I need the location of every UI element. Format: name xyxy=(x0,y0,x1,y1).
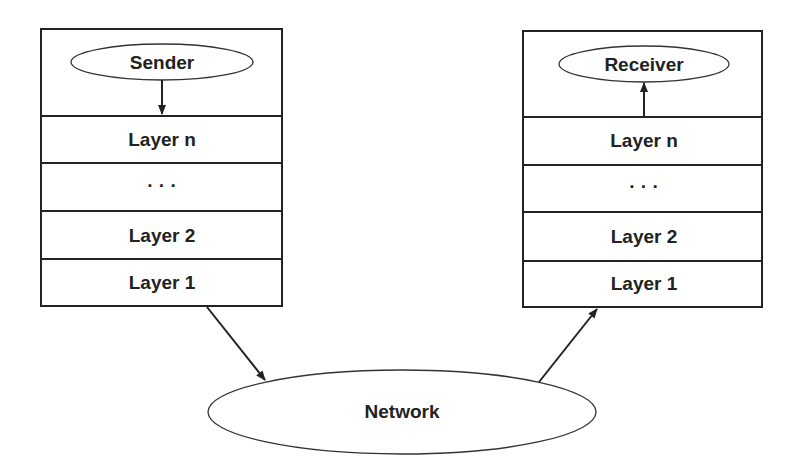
diagram-canvas: Sender Layer n · · · Layer 2 Layer 1 Rec… xyxy=(0,0,797,474)
network: Network xyxy=(208,370,596,454)
network-to-receiver-arrow xyxy=(539,309,597,382)
sender-layer-2: Layer 2 xyxy=(129,225,196,246)
sender-layer-1: Layer 1 xyxy=(129,272,196,293)
sender-to-network-arrow xyxy=(207,307,265,380)
receiver-layer-ellipsis: · · · xyxy=(629,176,659,197)
sender-layer-ellipsis: · · · xyxy=(147,175,177,196)
sender-layer-n: Layer n xyxy=(128,129,196,150)
receiver-label: Receiver xyxy=(604,54,684,75)
receiver-layer-1: Layer 1 xyxy=(611,273,678,294)
receiver-stack: Receiver Layer n · · · Layer 2 Layer 1 xyxy=(523,31,762,307)
network-label: Network xyxy=(365,401,440,422)
sender-stack: Sender Layer n · · · Layer 2 Layer 1 xyxy=(41,29,282,306)
receiver-layer-2: Layer 2 xyxy=(611,226,678,247)
sender-label: Sender xyxy=(130,52,195,73)
receiver-layer-n: Layer n xyxy=(610,130,678,151)
